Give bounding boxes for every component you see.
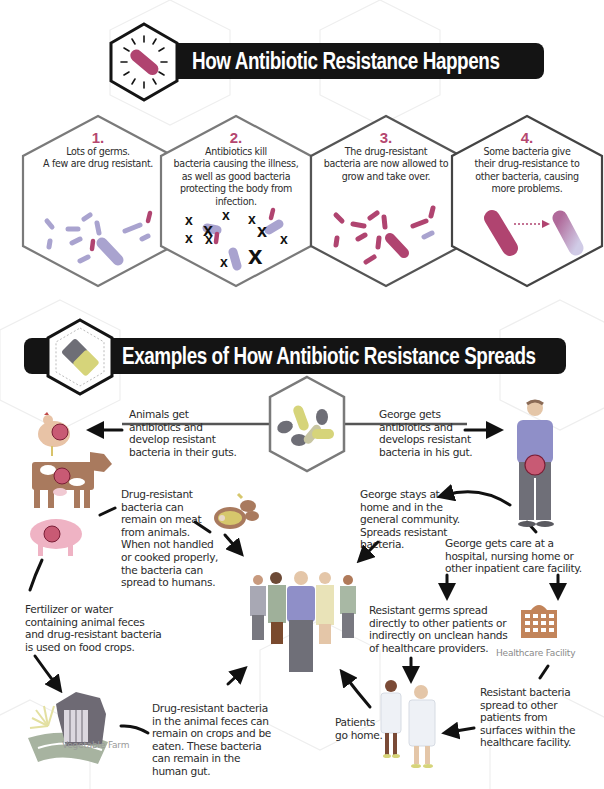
hospital-building-icon <box>517 600 561 640</box>
patient-2 <box>409 685 435 768</box>
person-3-george <box>287 571 315 672</box>
chicken-icon <box>38 412 70 456</box>
livestock-illustration <box>22 412 132 562</box>
vegetable-farm-label: Vegetable Farm <box>62 740 129 750</box>
healthcare-facility-label: Healthcare Facility <box>496 648 575 658</box>
person-4 <box>316 572 334 644</box>
cow-icon <box>32 452 112 508</box>
sun-icon <box>30 706 54 728</box>
person-1 <box>250 575 266 640</box>
george-figure <box>505 398 565 533</box>
community-people <box>243 568 363 678</box>
meat-icon <box>212 494 262 534</box>
patients-figures <box>375 678 445 773</box>
patient-1 <box>381 680 401 758</box>
vegetable-farm-icon <box>28 686 118 766</box>
pig-icon <box>30 519 82 556</box>
person-2 <box>268 572 286 644</box>
person-5 <box>340 575 356 638</box>
